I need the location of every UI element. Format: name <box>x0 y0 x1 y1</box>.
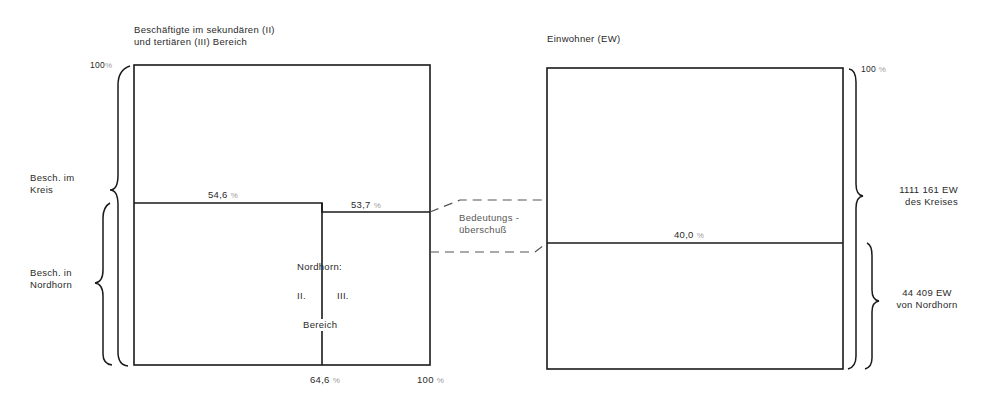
connector-dashed-line-bottom <box>430 243 547 252</box>
left-bottom-100-value: 100 <box>417 374 434 385</box>
nordhorn-population-label: 44 409 EW von Nordhorn <box>888 287 966 311</box>
right-top-100-unit: % <box>879 65 886 74</box>
employment-title: Beschäftigte im sekundären (II) und tert… <box>134 24 275 48</box>
bracket-kreis-label: Besch. im Kreis <box>30 172 74 196</box>
left-bottom-100-unit: % <box>437 376 444 385</box>
inner-sector2-label: II. <box>297 290 306 302</box>
right-top-100-label: 100 % <box>861 63 886 76</box>
sector2-share-unit: % <box>231 191 238 200</box>
split-value-label: 64,6 % <box>310 374 340 387</box>
employment-title-line2: und tertiären (III) Bereich <box>134 36 275 48</box>
brace-nordhorn-icon <box>95 203 112 365</box>
bracket-kreis-line1: Besch. im <box>30 172 74 184</box>
kreis-population-caption: des Kreises <box>888 196 958 208</box>
brace-ew-kreis-icon <box>848 69 863 369</box>
population-title: Einwohner (EW) <box>547 33 620 45</box>
kreis-population-value: 1111 161 EW <box>888 184 958 196</box>
split-value: 64,6 <box>310 374 330 385</box>
sector3-share-label: 53,7 % <box>351 199 381 212</box>
bracket-nordhorn-line2: Nordhorn <box>30 279 72 291</box>
bracket-nordhorn-label: Besch. in Nordhorn <box>30 267 72 291</box>
left-bottom-100-label: 100 % <box>417 374 444 387</box>
sector3-share-value: 53,7 <box>351 199 371 210</box>
sector2-share-value: 54,6 <box>208 189 228 200</box>
bracket-nordhorn-line1: Besch. in <box>30 267 72 279</box>
population-box <box>547 68 843 369</box>
sector3-share-unit: % <box>374 201 381 210</box>
left-top-100-label: 100% <box>90 59 113 72</box>
divider-unit: % <box>697 231 704 240</box>
bracket-kreis-line2: Kreis <box>30 184 74 196</box>
brace-ew-nordhorn-icon <box>865 243 879 369</box>
connector-line1: Bedeutungs - <box>459 212 519 224</box>
nordhorn-population-caption: von Nordhorn <box>888 299 966 311</box>
inner-bereich-label: Bereich <box>302 319 338 331</box>
inner-sector3-label: III. <box>337 290 349 302</box>
connector-line2: überschuß <box>459 224 519 236</box>
bedeutungsueberschuss-label: Bedeutungs - überschuß <box>459 212 519 236</box>
connector-dashed-line <box>430 200 547 212</box>
nordhorn-population-value: 44 409 EW <box>888 287 966 299</box>
brace-kreis-icon <box>110 66 130 366</box>
diagram-canvas <box>0 0 985 398</box>
left-top-100-unit: % <box>105 61 112 70</box>
divider-value-label: 40,0 % <box>674 229 704 242</box>
divider-value: 40,0 <box>674 229 694 240</box>
kreis-population-label: 1111 161 EW des Kreises <box>888 184 958 208</box>
right-top-100-value: 100 <box>861 64 876 74</box>
employment-box <box>134 65 430 365</box>
inner-nordhorn-title: Nordhorn: <box>297 261 342 273</box>
employment-title-line1: Beschäftigte im sekundären (II) <box>134 24 275 36</box>
split-value-unit: % <box>333 376 340 385</box>
sector2-share-label: 54,6 % <box>208 189 238 202</box>
left-top-100-value: 100 <box>90 60 105 70</box>
nordhorn-share-line <box>134 203 430 212</box>
